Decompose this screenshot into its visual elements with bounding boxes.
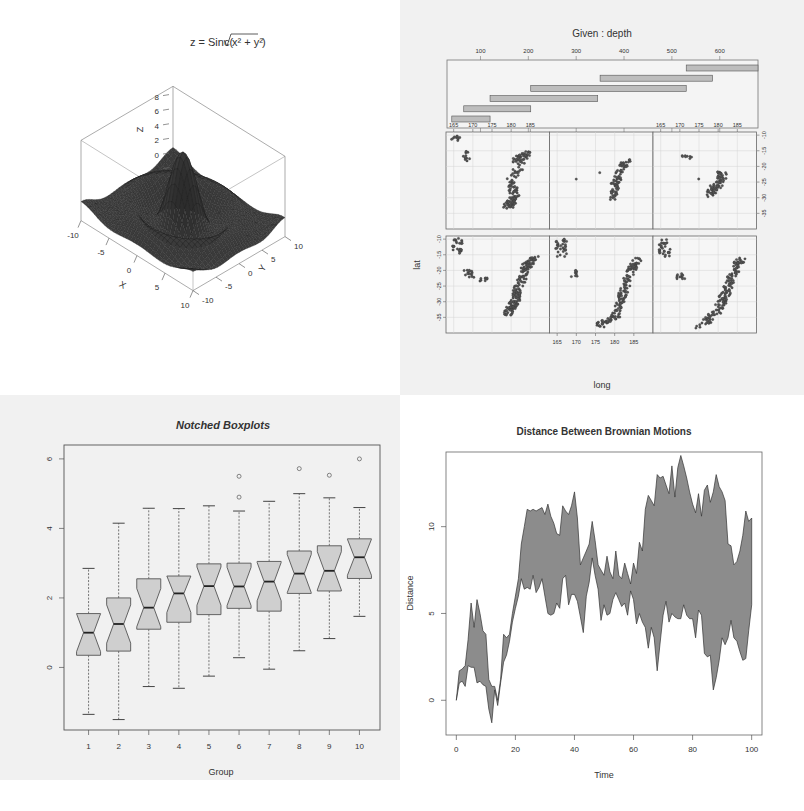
coplot-scatter-panel bbox=[446, 132, 550, 229]
y-tick-label: -5 bbox=[225, 282, 233, 291]
boxplot-y-tick-label: 2 bbox=[45, 595, 54, 600]
notched-box bbox=[347, 457, 371, 616]
brownian-area-plot: Distance Between Brownian Motions 020406… bbox=[400, 395, 804, 780]
distance-tick-label: 0 bbox=[427, 698, 436, 703]
long-tick-label: 185 bbox=[733, 122, 742, 128]
y-tick-label: 5 bbox=[271, 255, 276, 264]
perspective-title-rad: x² + y² bbox=[232, 36, 263, 48]
time-tick-label: 60 bbox=[629, 745, 638, 754]
group-tick-label: 8 bbox=[297, 742, 302, 751]
distance-tick-label: 10 bbox=[427, 522, 436, 531]
long-tick-label: 165 bbox=[449, 122, 458, 128]
notched-box bbox=[227, 474, 251, 657]
long-tick-label: 170 bbox=[675, 122, 684, 128]
given-tick-label: 300 bbox=[571, 48, 582, 54]
perspective-plot-panel: z = Sinc( x² + y² ) -202468Z-10-50510X-1… bbox=[0, 0, 400, 395]
lat-tick-label: -15 bbox=[436, 251, 442, 259]
x-tick-label: 0 bbox=[127, 266, 132, 275]
boxplot-y-tick-label: 4 bbox=[45, 526, 54, 531]
group-tick-label: 2 bbox=[116, 742, 121, 751]
long-tick-label: 180 bbox=[714, 122, 723, 128]
group-tick-label: 10 bbox=[355, 742, 364, 751]
z-tick-label: 8 bbox=[155, 93, 160, 102]
boxplot-y-tick-label: 0 bbox=[45, 665, 54, 670]
time-tick-label: 40 bbox=[570, 745, 579, 754]
long-tick-label: 170 bbox=[468, 122, 477, 128]
lat-tick-label: -25 bbox=[436, 282, 442, 290]
z-tick-label: 0 bbox=[155, 151, 160, 160]
outlier-point bbox=[327, 473, 331, 477]
long-tick-label: 175 bbox=[694, 122, 703, 128]
notched-box bbox=[107, 523, 131, 719]
x-tick-label: 10 bbox=[181, 301, 190, 310]
coplot-xlabel: long bbox=[593, 380, 610, 390]
given-interval-bar bbox=[531, 85, 687, 91]
given-interval-bar bbox=[600, 75, 712, 81]
brownian-panel: Distance Between Brownian Motions 020406… bbox=[400, 395, 804, 780]
z-tick-label: -2 bbox=[152, 166, 160, 175]
outlier-point bbox=[357, 457, 361, 461]
given-tick-label: 400 bbox=[619, 48, 630, 54]
time-tick-label: 20 bbox=[511, 745, 520, 754]
group-tick-label: 4 bbox=[177, 742, 182, 751]
lat-tick-label: -10 bbox=[762, 131, 768, 139]
z-tick-label: 2 bbox=[155, 136, 160, 145]
notched-box bbox=[257, 501, 281, 669]
long-tick-label: 170 bbox=[572, 339, 581, 345]
lat-tick-label: -30 bbox=[762, 194, 768, 202]
coplot: Given : depth 100200300400500600 1651701… bbox=[400, 0, 804, 395]
coplot-scatter-panel bbox=[653, 132, 757, 229]
long-tick-label: 175 bbox=[591, 339, 600, 345]
lat-tick-label: -10 bbox=[436, 235, 442, 243]
given-tick-label: 100 bbox=[475, 48, 486, 54]
boxplot-panel: Notched Boxplots 024612345678910 Group bbox=[0, 395, 400, 780]
y-tick-label: 0 bbox=[248, 269, 253, 278]
y-axis-label: Y bbox=[257, 263, 269, 273]
lat-tick-label: -20 bbox=[436, 266, 442, 274]
long-tick-label: 165 bbox=[553, 339, 562, 345]
coplot-ylabel: lat bbox=[412, 260, 422, 270]
given-tick-label: 200 bbox=[523, 48, 534, 54]
boxplot-y-tick-label: 6 bbox=[45, 456, 54, 461]
y-tick-label: -10 bbox=[202, 296, 214, 305]
lat-tick-label: -15 bbox=[762, 147, 768, 155]
brownian-plot-area: 0204060801000510 bbox=[427, 452, 762, 754]
brownian-ylabel: Distance bbox=[405, 575, 415, 610]
time-tick-label: 80 bbox=[688, 745, 697, 754]
notched-box bbox=[287, 467, 311, 651]
group-tick-label: 7 bbox=[267, 742, 272, 751]
notched-box bbox=[197, 506, 221, 676]
long-tick-label: 175 bbox=[487, 122, 496, 128]
long-tick-label: 180 bbox=[507, 122, 516, 128]
coplot-scatter-panel bbox=[550, 236, 654, 333]
lat-tick-label: -25 bbox=[762, 178, 768, 186]
long-tick-label: 185 bbox=[629, 339, 638, 345]
given-interval-bar bbox=[490, 96, 598, 102]
group-tick-label: 5 bbox=[207, 742, 212, 751]
coplot-given-title: Given : depth bbox=[572, 28, 631, 39]
perspective-title-rhs: ) bbox=[262, 36, 266, 48]
outlier-point bbox=[297, 467, 301, 471]
x-tick-label: 5 bbox=[155, 283, 160, 292]
given-tick-label: 500 bbox=[667, 48, 678, 54]
notched-box bbox=[317, 473, 341, 638]
brownian-xlabel: Time bbox=[594, 770, 614, 780]
notched-boxplot: Notched Boxplots 024612345678910 Group bbox=[0, 395, 400, 780]
group-tick-label: 9 bbox=[327, 742, 332, 751]
coplot-scatter-panel bbox=[446, 236, 550, 333]
group-tick-label: 1 bbox=[86, 742, 91, 751]
x-tick-label: -10 bbox=[67, 231, 79, 240]
z-tick-label: 4 bbox=[155, 122, 160, 131]
notched-box bbox=[167, 509, 191, 689]
notched-box bbox=[137, 508, 161, 686]
distance-band bbox=[456, 456, 751, 723]
long-tick-label: 180 bbox=[610, 339, 619, 345]
given-tick-label: 600 bbox=[715, 48, 726, 54]
group-tick-label: 3 bbox=[147, 742, 152, 751]
time-tick-label: 100 bbox=[745, 745, 759, 754]
lat-tick-label: -30 bbox=[436, 298, 442, 306]
perspective-plot: z = Sinc( x² + y² ) -202468Z-10-50510X-1… bbox=[0, 0, 400, 395]
outlier-point bbox=[237, 495, 241, 499]
coplot-scatter-panel bbox=[653, 236, 757, 333]
notched-box bbox=[77, 568, 101, 714]
